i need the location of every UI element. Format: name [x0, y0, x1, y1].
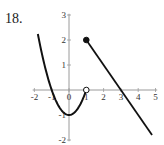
x-tick-label: 4: [136, 92, 141, 102]
y-tick-label: 3: [62, 10, 67, 20]
y-tick-label: 2: [62, 35, 67, 45]
open-endpoint: [84, 87, 90, 93]
piecewise-graph: -2-1012345321-1-2: [0, 0, 164, 145]
y-tick-label: 1: [62, 60, 67, 70]
x-tick-label: 5: [153, 92, 158, 102]
x-tick-label: -2: [31, 92, 39, 102]
closed-endpoint: [84, 37, 90, 43]
parabola-curve: [38, 34, 86, 115]
y-tick-label: -2: [59, 135, 67, 145]
x-tick-label: 2: [101, 92, 106, 102]
line-segment: [86, 40, 152, 135]
x-tick-label: 0: [67, 92, 72, 102]
